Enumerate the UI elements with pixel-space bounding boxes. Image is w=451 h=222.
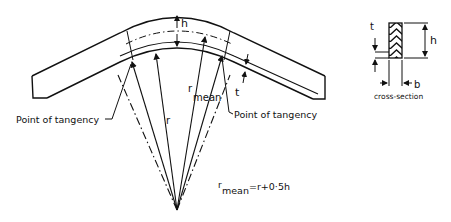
r-mean-label-sub: mean xyxy=(193,92,221,103)
r-label: r xyxy=(166,115,171,126)
cs-caption: cross-section xyxy=(374,92,423,101)
formula-sub: mean xyxy=(222,185,249,196)
tangency-leaders xyxy=(105,58,233,119)
cs-h-label: h xyxy=(430,34,437,47)
tangency-section-lines xyxy=(127,31,230,60)
h-label: h xyxy=(181,17,188,30)
radius-lines xyxy=(118,37,230,210)
formula-rhs: =r+0·5h xyxy=(249,181,290,192)
cs-t-label: t xyxy=(370,21,374,32)
point-of-tangency-right: Point of tangency xyxy=(234,109,317,120)
curved-beam-diagram: h t r r mean Point of tangency Point of … xyxy=(0,0,451,222)
cross-section: t h b cross-section xyxy=(370,21,437,101)
formula: r mean =r+0·5h xyxy=(218,180,290,196)
point-of-tangency-left: Point of tangency xyxy=(16,114,99,125)
beam-outline xyxy=(32,18,325,100)
t-label: t xyxy=(235,86,240,99)
cs-b-label: b xyxy=(414,79,420,90)
